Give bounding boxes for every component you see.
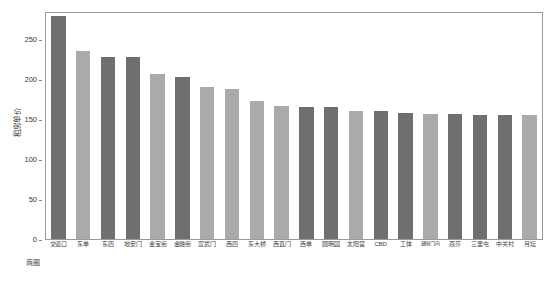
x-label-slot: 金融街 — [170, 241, 195, 255]
x-axis-tick-label: 燕莎 — [449, 241, 461, 248]
bar — [324, 107, 338, 239]
bar-slot — [368, 13, 393, 239]
bar-slot — [319, 13, 344, 239]
y-axis-title-text: 租房单价 — [12, 108, 23, 138]
x-axis-tick-label: 地安门 — [124, 241, 142, 248]
x-label-slot: 西直门 — [269, 241, 294, 255]
bar — [448, 114, 462, 239]
bar — [374, 111, 388, 239]
bar-slot — [170, 13, 195, 239]
bar-slot — [294, 13, 319, 239]
y-axis-tick-label: 250 — [24, 36, 39, 44]
x-axis-tick-label: 西四 — [226, 241, 238, 248]
x-axis-tick-label: 圆明园 — [322, 241, 340, 248]
bar-slot — [443, 13, 468, 239]
bar — [200, 87, 214, 239]
x-label-slot: 东四 — [96, 241, 121, 255]
y-axis-ticks: 050100150200250 — [22, 12, 42, 240]
x-label-slot: 金宝街 — [145, 241, 170, 255]
x-label-slot: 太阳宫 — [344, 241, 369, 255]
bar-slot — [195, 13, 220, 239]
bar — [299, 107, 313, 239]
x-label-slot: 工体 — [393, 241, 418, 255]
bar — [175, 77, 189, 239]
x-axis-tick-labels: 交道口东单东四地安门金宝街金融街宣武门西四东大桥西直门西单圆明园太阳宫CBD工体… — [46, 241, 542, 255]
bar — [473, 115, 487, 239]
bar-slot — [393, 13, 418, 239]
x-axis-tick-label: 月坛 — [524, 241, 536, 248]
x-axis-tick-label: 宣武门 — [198, 241, 216, 248]
x-axis-tick-label: 西直门 — [273, 241, 291, 248]
y-axis-tick-mark — [39, 40, 42, 41]
bar — [498, 115, 512, 239]
bar — [225, 89, 239, 239]
x-label-slot: 宣武门 — [195, 241, 220, 255]
x-label-slot: 东单 — [71, 241, 96, 255]
x-axis-tick-label: 工体 — [400, 241, 412, 248]
bar — [522, 115, 536, 239]
bar-slot — [517, 13, 542, 239]
x-label-slot: 月坛 — [517, 241, 542, 255]
bar — [101, 57, 115, 239]
bar — [423, 114, 437, 239]
y-axis-tick-label: 200 — [24, 76, 39, 84]
bar-slot — [220, 13, 245, 239]
x-label-slot: 三里屯 — [468, 241, 493, 255]
bar-slot — [344, 13, 369, 239]
bar — [274, 106, 288, 239]
x-label-slot: 交道口 — [46, 241, 71, 255]
bar — [398, 113, 412, 239]
x-label-slot: 西四 — [220, 241, 245, 255]
bar-slot — [468, 13, 493, 239]
bar-slot — [96, 13, 121, 239]
y-axis-tick-mark — [39, 240, 42, 241]
bar — [76, 51, 90, 239]
x-axis-tick-label: 西单 — [300, 241, 312, 248]
x-axis-tick-label: CBD — [375, 241, 387, 248]
bar-slot — [269, 13, 294, 239]
bar-slot — [244, 13, 269, 239]
x-label-slot: 东大桥 — [244, 241, 269, 255]
x-label-slot: 圆明园 — [319, 241, 344, 255]
x-label-slot: 西单 — [294, 241, 319, 255]
bars-container — [46, 13, 542, 239]
x-axis-tick-label: 太阳宫 — [347, 241, 365, 248]
x-label-slot: 中关村 — [492, 241, 517, 255]
x-axis-tick-label: 东单 — [77, 241, 89, 248]
x-label-slot: CBD — [368, 241, 393, 255]
bar — [126, 57, 140, 239]
bar-slot — [418, 13, 443, 239]
bar-slot — [120, 13, 145, 239]
x-axis-title: 商圈 — [26, 257, 41, 267]
x-label-slot: 燕莎 — [443, 241, 468, 255]
y-axis-tick-label: 100 — [24, 156, 39, 164]
x-axis-tick-label: 交道口 — [50, 241, 68, 248]
x-axis-tick-label: 东大桥 — [248, 241, 266, 248]
y-axis-tick-mark — [39, 80, 42, 81]
y-axis-tick-label: 150 — [24, 116, 39, 124]
bar-slot — [71, 13, 96, 239]
bar-slot — [492, 13, 517, 239]
bar — [349, 111, 363, 239]
bar-slot — [145, 13, 170, 239]
x-axis-tick-label: 金融街 — [174, 241, 192, 248]
x-axis-tick-label: 三里屯 — [471, 241, 489, 248]
y-axis-tick-mark — [39, 160, 42, 161]
bar — [51, 16, 65, 239]
y-axis-tick-label: 50 — [29, 196, 39, 204]
x-axis-tick-label: 东四 — [102, 241, 114, 248]
x-axis-tick-label: 中关村 — [496, 241, 514, 248]
x-axis-tick-label: 建国门内 — [421, 241, 441, 247]
x-axis-tick-label: 金宝街 — [149, 241, 167, 248]
x-label-slot: 建国门内 — [418, 241, 443, 255]
bar — [150, 74, 164, 239]
y-axis-tick-mark — [39, 120, 42, 121]
bar-slot — [46, 13, 71, 239]
bar-chart: 租房单价 050100150200250 交道口东单东四地安门金宝街金融街宣武门… — [0, 0, 557, 283]
x-label-slot: 地安门 — [120, 241, 145, 255]
bar — [250, 101, 264, 239]
y-axis-tick-mark — [39, 200, 42, 201]
